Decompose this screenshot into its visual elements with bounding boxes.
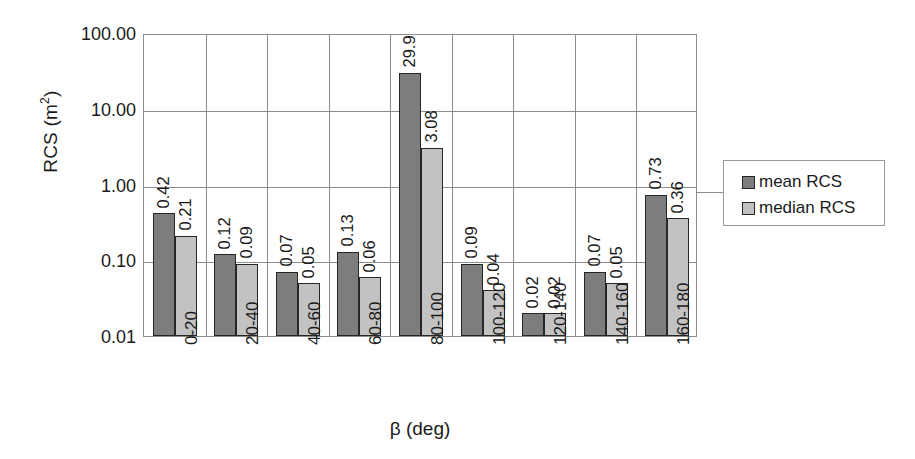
bar-group: 0.420.21 — [144, 35, 206, 336]
bar-value-label: 0.09 — [462, 227, 479, 259]
bar-mean-rcs[interactable] — [461, 264, 483, 336]
legend-color-swatch-icon — [742, 176, 755, 189]
bar-value-label: 0.73 — [647, 158, 664, 190]
bar-mean-rcs[interactable] — [399, 73, 421, 336]
legend-color-swatch-icon — [742, 202, 755, 215]
bar-value-label: 0.42 — [154, 176, 171, 208]
bar-group: 29.93.08 — [390, 35, 452, 336]
bar-mean-rcs[interactable] — [214, 254, 236, 336]
bar-value-label: 0.04 — [484, 253, 501, 285]
y-axis-tick-label: 0.10 — [36, 252, 136, 270]
bar-mean-rcs[interactable] — [522, 313, 544, 336]
legend-item[interactable]: median RCS — [742, 195, 884, 221]
bar-value-label: 29.9 — [400, 36, 417, 68]
bar-group: 0.120.09 — [206, 35, 268, 336]
x-axis-tick-label: 0-20 — [183, 311, 200, 345]
bar-group: 0.130.06 — [329, 35, 391, 336]
x-axis-tick-label: 160-180 — [675, 283, 692, 345]
bar-mean-rcs[interactable] — [276, 272, 298, 336]
x-axis-tick-label: 140-160 — [614, 283, 631, 345]
legend-item-label: mean RCS — [759, 172, 842, 192]
y-axis-tick-label: 1.00 — [36, 177, 136, 195]
legend-item-label: median RCS — [759, 198, 855, 218]
bar-value-label: 0.05 — [299, 246, 316, 278]
bar-value-label: 0.36 — [669, 181, 686, 213]
bar-mean-rcs[interactable] — [153, 213, 175, 336]
bar-value-label: 0.07 — [277, 235, 294, 267]
y-axis-tick-labels: 100.0010.001.000.100.01 — [36, 0, 136, 459]
bar-mean-rcs[interactable] — [337, 252, 359, 336]
bar-value-label: 0.06 — [361, 240, 378, 272]
x-axis-tick-label: 100-120 — [491, 283, 508, 345]
bar-mean-rcs[interactable] — [645, 195, 667, 336]
bar-value-label: 0.05 — [607, 246, 624, 278]
bar-value-label: 0.21 — [176, 199, 193, 231]
rcs-bar-chart: RCS (m2) 100.0010.001.000.100.01 0.420.2… — [0, 0, 915, 459]
x-axis-tick-label: 20-40 — [244, 302, 261, 345]
bar-value-label: 0.07 — [585, 235, 602, 267]
bar-group: 0.070.05 — [267, 35, 329, 336]
x-axis-tick-label: 120-140 — [552, 283, 569, 345]
legend-item[interactable]: mean RCS — [742, 169, 884, 195]
chart-legend: mean RCSmedian RCS — [723, 160, 885, 226]
x-axis-tick-label: 80-100 — [429, 292, 446, 345]
y-axis-tick-label: 0.01 — [36, 328, 136, 346]
bar-value-label: 0.13 — [339, 215, 356, 247]
bar-value-label: 0.02 — [524, 276, 541, 308]
bar-value-label: 0.12 — [216, 217, 233, 249]
x-axis-tick-label: 60-80 — [367, 302, 384, 345]
y-axis-tick-label: 100.00 — [36, 25, 136, 43]
legend-leader-line — [697, 192, 723, 193]
bar-value-label: 3.08 — [422, 110, 439, 142]
x-axis-tick-label: 40-60 — [306, 302, 323, 345]
y-axis-tick-label: 10.00 — [36, 101, 136, 119]
x-axis-title: β (deg) — [143, 418, 697, 440]
bar-mean-rcs[interactable] — [584, 272, 606, 336]
bar-value-label: 0.09 — [238, 227, 255, 259]
